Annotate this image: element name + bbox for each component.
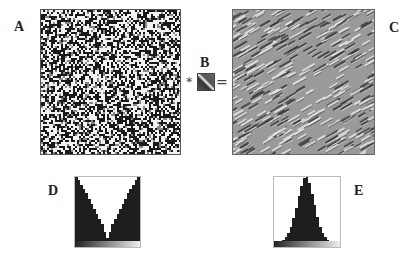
histogram-e-bars	[274, 177, 340, 241]
panel-label-d: D	[48, 184, 58, 198]
texture-pattern	[233, 10, 375, 155]
equals-operator: =	[216, 74, 228, 90]
panel-label-e: E	[354, 184, 363, 198]
noise-pattern	[41, 10, 181, 155]
histogram-d-bars	[75, 177, 140, 241]
filter-kernel-panel	[197, 73, 215, 91]
panel-label-c: C	[389, 21, 399, 35]
histogram-bar	[137, 177, 140, 241]
histogram-d	[74, 176, 141, 248]
noise-image-panel	[40, 9, 181, 155]
filtered-texture-panel	[232, 9, 375, 155]
histogram-e	[273, 176, 341, 248]
oriented-kernel-glyph	[198, 74, 214, 90]
histogram-e-gray-ramp	[274, 241, 340, 247]
panel-label-a: A	[14, 20, 24, 34]
convolve-operator: *	[186, 74, 193, 89]
panel-label-b: B	[200, 56, 209, 70]
histogram-d-gray-ramp	[75, 241, 140, 247]
